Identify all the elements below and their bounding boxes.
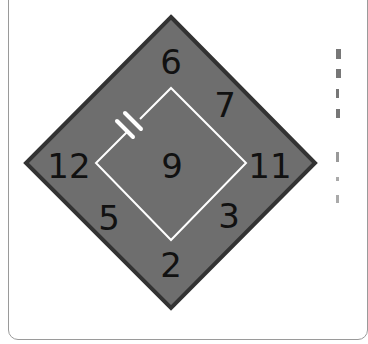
number-top: 6 (160, 42, 182, 82)
clipped-text-fragment (336, 49, 341, 59)
number-right: 11 (248, 146, 291, 186)
number-left: 12 (47, 146, 90, 186)
clipped-text-fragment (336, 69, 341, 78)
number-bottom: 2 (160, 245, 182, 285)
clipped-text-fragment (336, 152, 339, 162)
clipped-text-fragment (336, 89, 339, 98)
clipped-text-fragment (336, 195, 339, 203)
number-upper-right: 7 (214, 85, 236, 125)
number-center: 9 (161, 146, 183, 186)
clipped-text-fragment (336, 109, 340, 118)
number-lower-left: 5 (98, 198, 120, 238)
number-lower-right: 3 (218, 196, 240, 236)
clipped-text-fragment (336, 177, 339, 181)
